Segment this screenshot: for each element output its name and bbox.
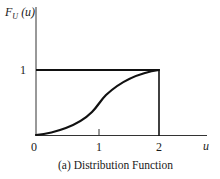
x-axis-label: u bbox=[203, 140, 209, 152]
cdf-curve bbox=[36, 70, 159, 135]
x-tick-label-1: 1 bbox=[96, 141, 102, 153]
x-tick-label-0: 0 bbox=[31, 141, 37, 153]
y-axis-label: FU (u) bbox=[5, 6, 35, 21]
y-tick-label-1: 1 bbox=[20, 64, 26, 76]
figure-caption: (a) Distribution Function bbox=[58, 160, 173, 172]
x-tick-label-2: 2 bbox=[156, 141, 162, 153]
